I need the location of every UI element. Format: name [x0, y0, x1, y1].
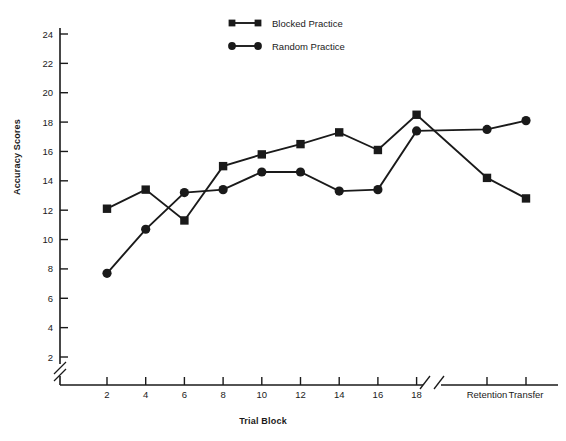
circle-marker [219, 185, 228, 194]
circle-marker [257, 167, 266, 176]
y-axis: 24681012141618202224 [42, 28, 68, 385]
square-marker [412, 111, 420, 119]
y-tick-label: 20 [42, 87, 53, 98]
circle-marker [180, 188, 189, 197]
circle-marker [373, 185, 382, 194]
y-tick-label: 24 [42, 29, 53, 40]
x-tick-label: Transfer [508, 389, 543, 400]
x-tick-label: Retention [467, 389, 508, 400]
x-tick-label: 10 [257, 389, 268, 400]
x-tick-label: 8 [220, 389, 225, 400]
y-tick-label: 4 [48, 322, 53, 333]
data-series-group [102, 111, 530, 278]
legend-label: Random Practice [272, 41, 345, 52]
x-tick-label: 14 [334, 389, 345, 400]
x-tick-label: 2 [104, 389, 109, 400]
square-marker [335, 128, 343, 136]
circle-marker [228, 42, 236, 50]
circle-marker [102, 269, 111, 278]
square-marker [296, 140, 304, 148]
square-marker [180, 216, 188, 224]
circle-marker [482, 125, 491, 134]
x-tick-label: 6 [182, 389, 187, 400]
square-marker [258, 150, 266, 158]
x-tick-label: 12 [295, 389, 306, 400]
y-tick-label: 14 [42, 175, 53, 186]
y-tick-label: 18 [42, 117, 53, 128]
square-marker [103, 205, 111, 213]
circle-marker [521, 116, 530, 125]
legend-item: Blocked Practice [229, 18, 343, 29]
square-marker [374, 146, 382, 154]
circle-marker [141, 225, 150, 234]
square-marker [219, 162, 227, 170]
circle-marker [254, 42, 262, 50]
y-tick-label: 16 [42, 146, 53, 157]
square-marker [522, 194, 530, 202]
x-tick-label: 4 [143, 389, 148, 400]
circle-marker [296, 167, 305, 176]
x-tick-label: 18 [411, 389, 422, 400]
chart-legend: Blocked PracticeRandom Practice [228, 18, 345, 52]
plot-area: 24681012141618202224 24681012141618Reten… [0, 0, 566, 441]
square-marker [483, 174, 491, 182]
y-tick-label: 2 [48, 352, 53, 363]
circle-marker [412, 126, 421, 135]
legend-label: Blocked Practice [272, 18, 343, 29]
square-marker [229, 20, 236, 27]
circle-marker [335, 186, 344, 195]
x-axis: 24681012141618RetentionTransfer [60, 376, 558, 400]
y-tick-label: 10 [42, 234, 53, 245]
square-marker [142, 185, 150, 193]
y-tick-label: 12 [42, 205, 53, 216]
accuracy-scores-chart: Accuracy Scores Trial Block 246810121416… [0, 0, 566, 441]
x-tick-label: 16 [373, 389, 384, 400]
series-random-practice [102, 116, 530, 278]
y-tick-label: 6 [48, 293, 53, 304]
legend-item: Random Practice [228, 41, 345, 52]
y-tick-label: 22 [42, 58, 53, 69]
square-marker [255, 20, 262, 27]
series-blocked-practice [103, 111, 530, 225]
y-tick-label: 8 [48, 263, 53, 274]
